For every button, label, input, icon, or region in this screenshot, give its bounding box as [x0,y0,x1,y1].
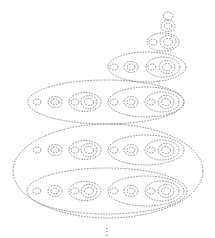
dashed-ellipse [161,21,175,32]
dashed-ellipse [124,145,138,156]
level-4-group [108,52,186,82]
dashed-ellipse [162,188,171,195]
dashed-ellipse [81,96,97,109]
dashed-ellipse [110,188,118,194]
dashed-ellipse [108,87,184,117]
level-3-group [147,33,179,51]
dashed-ellipse [85,147,94,154]
dashed-ellipse [13,124,203,218]
dashed-ellipse [147,147,155,153]
dashed-ellipse [81,185,97,198]
dashed-ellipse [149,39,157,45]
nested-ellipse-diagram: ⋮ [0,0,215,238]
dashed-ellipse [110,99,118,105]
dashed-ellipse [164,39,173,46]
dashed-ellipse [85,188,94,195]
dashed-ellipse [51,99,59,105]
dashed-ellipse [108,176,184,206]
level-5-group [28,80,184,124]
dashed-ellipse [148,64,156,70]
dashed-ellipse [147,99,155,105]
dashed-ellipse [163,12,173,20]
dashed-ellipse [147,33,179,51]
dashed-ellipse [48,145,62,156]
diagram-svg: ⋮ [0,0,215,238]
dashed-ellipse [158,96,174,109]
dashed-ellipse [124,62,138,73]
dashed-ellipse [163,64,172,71]
dashed-ellipse [108,52,186,82]
dashed-ellipse [71,99,79,105]
dashed-ellipse [160,36,176,49]
dashed-ellipse [127,99,135,105]
dashed-ellipse [69,93,101,112]
dashed-ellipse [147,188,155,194]
dashed-ellipse [71,147,79,153]
dashed-ellipse [159,61,175,74]
dashed-ellipse [48,186,62,197]
dashed-ellipse [158,185,174,198]
dashed-ellipse [33,99,41,105]
dashed-ellipse [164,23,172,29]
dashed-ellipse [71,188,79,194]
dashed-ellipse [27,168,187,214]
dashed-ellipse [162,147,171,154]
level-1-group [163,12,173,20]
dashed-ellipse [110,64,118,70]
dashed-ellipse [69,182,101,201]
dashed-ellipse [127,64,135,70]
dashed-ellipse [108,135,184,165]
dashed-ellipse [127,147,135,153]
dashed-ellipse [124,186,138,197]
dashed-ellipse [51,147,59,153]
dashed-ellipse [81,144,97,157]
dashed-ellipse [33,188,41,194]
dashed-ellipse [33,147,41,153]
level-2-group [161,21,175,32]
dashed-ellipse [158,144,174,157]
level-6-group [13,124,203,218]
dashed-ellipse [51,188,59,194]
dashed-ellipse [162,99,171,106]
dashed-ellipse [85,99,94,106]
dashed-ellipse [124,97,138,108]
dashed-ellipse [28,80,184,124]
continuation-ellipsis: ⋮ [102,226,112,237]
dashed-ellipse [48,97,62,108]
dashed-ellipse [69,141,101,160]
dashed-ellipse [127,188,135,194]
dashed-ellipse [110,147,118,153]
